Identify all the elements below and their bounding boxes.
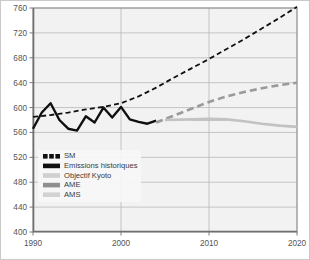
y-axis-ticks: 400440480520560600640680720760 bbox=[13, 4, 33, 237]
legend-label-ame: AME bbox=[64, 180, 80, 189]
document-page: 400440480520560600640680720760 199020002… bbox=[0, 0, 310, 260]
y-tick-label-440: 440 bbox=[13, 203, 27, 212]
legend-label-sm: SM bbox=[64, 151, 75, 160]
legend-swatch-emissions-historiques bbox=[43, 164, 60, 169]
legend-swatch-ams bbox=[43, 192, 60, 197]
y-tick-label-720: 720 bbox=[13, 29, 27, 38]
emissions-projection-chart: 400440480520560600640680720760 199020002… bbox=[0, 0, 310, 260]
y-tick-label-680: 680 bbox=[13, 54, 27, 63]
y-tick-label-600: 600 bbox=[13, 104, 27, 113]
x-tick-label-1990: 1990 bbox=[24, 239, 43, 248]
y-tick-label-560: 560 bbox=[13, 128, 27, 137]
legend-swatch-objectif-kyoto bbox=[43, 173, 60, 178]
legend-label-emissions-historiques: Emissions historiques bbox=[64, 161, 138, 170]
legend-swatch-sm-seg0 bbox=[43, 154, 48, 159]
legend-label-objectif-kyoto: Objectif Kyoto bbox=[64, 171, 111, 180]
chart-legend: SMEmissions historiquesObjectif KyotoAME… bbox=[38, 150, 141, 202]
x-axis-ticks: 1990200020102020 bbox=[24, 232, 307, 248]
legend-swatch-ame bbox=[43, 183, 60, 188]
x-tick-label-2000: 2000 bbox=[112, 239, 131, 248]
y-tick-label-640: 640 bbox=[13, 79, 27, 88]
y-tick-label-480: 480 bbox=[13, 178, 27, 187]
x-tick-label-2020: 2020 bbox=[288, 239, 307, 248]
y-tick-label-760: 760 bbox=[13, 4, 27, 13]
x-tick-label-2010: 2010 bbox=[200, 239, 219, 248]
y-tick-label-520: 520 bbox=[13, 153, 27, 162]
legend-swatch-sm-seg2 bbox=[55, 154, 60, 159]
chart-canvas: 400440480520560600640680720760 199020002… bbox=[0, 0, 310, 260]
legend-label-ams: AMS bbox=[64, 190, 80, 199]
legend-swatch-sm-seg1 bbox=[49, 154, 54, 159]
y-tick-label-400: 400 bbox=[13, 228, 27, 237]
